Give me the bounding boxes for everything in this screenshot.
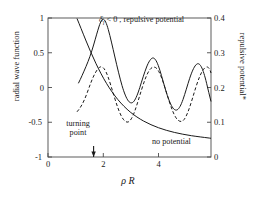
tick-bottom-2: 2: [94, 160, 112, 169]
tick-left-1: 1: [24, 14, 44, 23]
annotation-no-potential: no potential: [152, 137, 191, 146]
tick-right-0p3: 0.3: [214, 49, 236, 58]
annotation-repulsive-text: < 0 , repulsive potential: [104, 15, 184, 24]
tick-left-0: 0: [24, 84, 44, 93]
tick-left-0p5: 0.5: [24, 49, 44, 58]
tick-right-0: 0: [214, 153, 236, 162]
figure-container: radial wave function repulsive potential…: [0, 0, 259, 198]
tick-right-0p2: 0.2: [214, 84, 236, 93]
y-axis-label-left: radial wave function: [12, 18, 21, 114]
x-axis-label: ρ R: [88, 176, 168, 186]
tick-bottom-0: 0: [39, 160, 57, 169]
tick-right-0p4: 0.4: [214, 14, 236, 23]
turning-point-line-1: turning: [57, 119, 99, 128]
annotation-turning-point: turning point: [57, 119, 99, 138]
tick-right-0p1: 0.1: [214, 118, 236, 127]
y-axis-label-right: repulsive potential*: [239, 18, 248, 114]
tick-left-neg0p5: -0.5: [22, 118, 42, 127]
turning-point-line-2: point: [57, 128, 99, 137]
annotation-repulsive-potential: δl < 0 , repulsive potential: [99, 15, 184, 27]
tick-bottom-4: 4: [150, 160, 168, 169]
